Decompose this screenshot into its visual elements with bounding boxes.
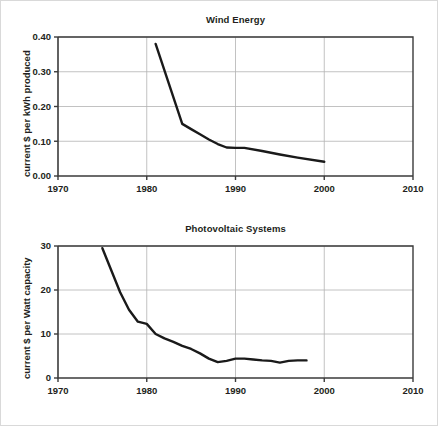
svg-text:0: 0: [46, 372, 51, 383]
svg-text:0.00: 0.00: [33, 170, 52, 181]
svg-text:1990: 1990: [225, 385, 246, 396]
x-tick-labels-photovoltaic-systems: 19701980199020002010: [47, 385, 423, 396]
plot-area-photovoltaic-systems: 0102030 19701980199020002010: [1, 214, 438, 426]
svg-text:1980: 1980: [136, 385, 157, 396]
svg-text:2010: 2010: [402, 183, 423, 194]
chart-photovoltaic-systems: Photovoltaic Systems current $ per Watt …: [1, 214, 438, 426]
figure-container: Wind Energy current $ per kWh produced 0…: [0, 0, 438, 426]
plot-area-wind-energy: 0.000.100.200.300.40 1970198019902000201…: [1, 1, 438, 214]
svg-text:0.30: 0.30: [33, 66, 52, 77]
svg-text:30: 30: [40, 240, 51, 251]
chart-wind-energy: Wind Energy current $ per kWh produced 0…: [1, 1, 438, 214]
svg-text:1990: 1990: [225, 183, 246, 194]
svg-text:1970: 1970: [47, 385, 68, 396]
y-tick-labels-photovoltaic-systems: 0102030: [40, 240, 51, 383]
svg-text:2000: 2000: [314, 385, 335, 396]
data-line-wind-energy: [156, 44, 325, 162]
gridlines-wind-energy: [58, 37, 413, 176]
x-tick-labels-wind-energy: 19701980199020002010: [47, 183, 423, 194]
svg-text:0.10: 0.10: [33, 136, 52, 147]
y-tick-labels-wind-energy: 0.000.100.200.300.40: [33, 31, 52, 181]
tickmarks-wind-energy: [54, 37, 413, 180]
svg-text:0.40: 0.40: [33, 31, 52, 42]
svg-text:2010: 2010: [402, 385, 423, 396]
svg-text:2000: 2000: [314, 183, 335, 194]
data-line-photovoltaic-systems: [102, 248, 306, 362]
svg-text:0.20: 0.20: [33, 101, 52, 112]
svg-text:1980: 1980: [136, 183, 157, 194]
svg-text:10: 10: [40, 328, 51, 339]
svg-text:20: 20: [40, 284, 51, 295]
svg-text:1970: 1970: [47, 183, 68, 194]
tickmarks-photovoltaic-systems: [54, 246, 413, 382]
